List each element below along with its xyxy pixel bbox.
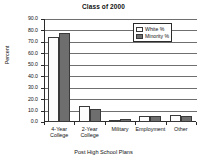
y-tick-label: 0.0 (12, 119, 38, 124)
legend-label: Minority % (145, 34, 169, 39)
x-tick-mark (44, 122, 45, 125)
y-tick-mark (41, 53, 44, 54)
bar (79, 106, 90, 122)
bar (150, 116, 161, 122)
bars-layer (44, 19, 196, 122)
bar-chart: Class of 2000 Percent 90.080.070.060.050… (0, 0, 207, 164)
legend-item[interactable]: White % (136, 26, 169, 33)
y-tick-label: 30.0 (12, 85, 38, 90)
bar (59, 33, 70, 122)
bar (120, 119, 131, 122)
y-tick-label: 10.0 (12, 108, 38, 113)
bar (109, 120, 120, 122)
legend-item[interactable]: Minority % (136, 33, 169, 40)
x-tick-mark (74, 122, 75, 125)
y-axis-title: Percent (4, 25, 10, 85)
y-tick-mark (41, 30, 44, 31)
y-tick-label: 90.0 (12, 16, 38, 21)
bar (48, 37, 59, 122)
legend: White %Minority % (133, 23, 172, 42)
y-tick-mark (41, 65, 44, 66)
chart-title: Class of 2000 (0, 3, 207, 10)
x-category-label: Other (159, 126, 203, 132)
x-tick-mark (135, 122, 136, 125)
y-tick-label: 40.0 (12, 74, 38, 79)
bar (90, 109, 101, 122)
x-tick-mark (166, 122, 167, 125)
y-tick-label: 50.0 (12, 62, 38, 67)
y-tick-mark (41, 19, 44, 20)
y-tick-label: 60.0 (12, 51, 38, 56)
legend-label: White % (145, 27, 164, 32)
y-tick-mark (41, 76, 44, 77)
x-axis-title: Post High School Plans (0, 149, 207, 155)
y-tick-mark (41, 99, 44, 100)
y-tick-mark (41, 42, 44, 43)
bar (170, 115, 181, 122)
legend-swatch-icon (136, 27, 143, 32)
bar (181, 116, 192, 122)
legend-swatch-icon (136, 34, 143, 39)
y-tick-mark (41, 88, 44, 89)
bar (139, 116, 150, 122)
x-tick-mark (105, 122, 106, 125)
y-tick-label: 80.0 (12, 28, 38, 33)
x-tick-mark (196, 122, 197, 125)
y-tick-mark (41, 111, 44, 112)
y-tick-label: 20.0 (12, 97, 38, 102)
y-tick-label: 70.0 (12, 39, 38, 44)
